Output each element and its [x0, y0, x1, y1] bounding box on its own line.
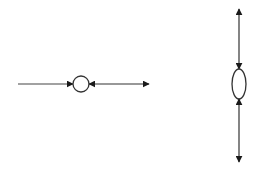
- right-node-ellipse: [232, 69, 246, 99]
- diagram-canvas: [0, 0, 258, 175]
- right-figure: [232, 9, 246, 162]
- left-node-circle: [73, 76, 89, 92]
- diagram-svg: [0, 0, 258, 175]
- left-figure: [18, 76, 149, 92]
